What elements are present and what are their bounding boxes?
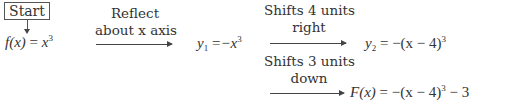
y1-name: y — [197, 35, 204, 51]
step-reflect-label: Reflect about x axis — [95, 5, 175, 39]
f-lhs: f(x) — [5, 34, 26, 50]
F-rhs: −(x − 4) — [392, 84, 441, 100]
step-shift-down-line2: down — [264, 70, 354, 87]
right-arrow-icon — [96, 44, 172, 45]
step-reflect-line2: about x axis — [95, 22, 175, 39]
y1-rhs: −x — [220, 35, 237, 51]
F-lhs: F(x) — [350, 84, 376, 100]
equation-F: F(x) = −(x − 4)3 − 3 — [350, 83, 469, 101]
F-tail: − 3 — [449, 84, 469, 100]
y1-exp: 3 — [237, 34, 242, 44]
y2-exp: 3 — [442, 34, 447, 44]
step-shift-down-label: Shifts 3 units down — [264, 53, 354, 87]
equation-y2: y2 = −(x − 4)3 — [365, 34, 446, 53]
y1-sub: 1 — [204, 43, 209, 53]
equation-f: f(x) = x3 — [5, 33, 53, 51]
f-exp: 3 — [48, 33, 53, 43]
f-eq: = — [30, 34, 38, 50]
y2-name: y — [365, 35, 372, 51]
step-shift-right-line2: right — [264, 19, 354, 36]
y2-rhs: −(x − 4) — [392, 35, 441, 51]
start-box: Start — [4, 2, 50, 20]
start-label: Start — [9, 3, 45, 19]
step-shift-right-line1: Shifts 4 units — [264, 2, 354, 19]
y2-sub: 2 — [372, 43, 377, 53]
step-shift-right-label: Shifts 4 units right — [264, 2, 354, 36]
y2-eq: = — [380, 35, 388, 51]
step-reflect-line1: Reflect — [95, 5, 175, 22]
right-arrow-icon — [270, 43, 346, 44]
equation-y1: y1 =−x3 — [197, 34, 242, 53]
right-arrow-icon — [270, 93, 344, 94]
step-shift-down-line1: Shifts 3 units — [264, 53, 354, 70]
F-exp: 3 — [441, 83, 446, 93]
F-eq: = — [380, 84, 388, 100]
